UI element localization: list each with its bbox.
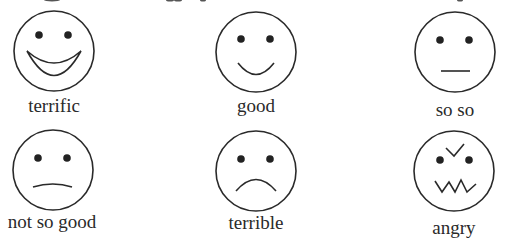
label-good: good bbox=[186, 96, 326, 116]
face-not-so-good: not so good bbox=[0, 120, 130, 242]
label-not-so-good: not so good bbox=[0, 212, 122, 232]
face-angry: angry bbox=[390, 120, 506, 242]
face-good: good bbox=[190, 0, 320, 120]
face-terrible: terrible bbox=[190, 120, 320, 242]
label-terrific: terrific bbox=[0, 96, 124, 116]
face-terrific: terrific bbox=[0, 0, 130, 120]
label-so-so: so so bbox=[385, 100, 506, 120]
label-terrible: terrible bbox=[186, 213, 326, 233]
label-angry: angry bbox=[384, 218, 506, 238]
face-so-so: so so bbox=[390, 0, 506, 120]
